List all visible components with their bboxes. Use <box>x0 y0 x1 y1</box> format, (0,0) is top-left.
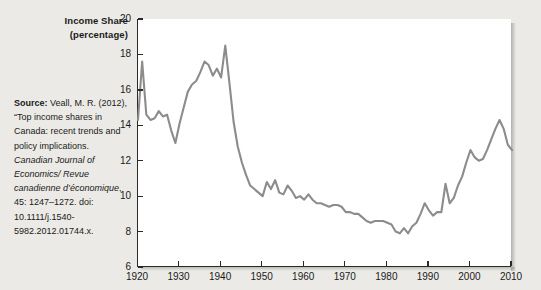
y-tick-20 <box>138 18 143 19</box>
y-tick-6 <box>138 266 143 267</box>
y-tick-label-10: 10 <box>105 191 131 201</box>
x-tick-label-2010: 2010 <box>491 272 531 282</box>
y-tick-label-20: 20 <box>105 14 131 24</box>
x-tick-label-1960: 1960 <box>283 272 323 282</box>
y-tick-label-14: 14 <box>105 120 131 130</box>
plot-area <box>137 19 511 267</box>
y-axis-title-line2: (percentage) <box>0 28 128 42</box>
x-tick-2000 <box>469 261 470 266</box>
x-tick-label-1930: 1930 <box>159 272 199 282</box>
income-share-chart-figure: Income Share (percentage) Source: Veall,… <box>0 0 541 290</box>
income-share-line <box>138 19 512 267</box>
x-tick-label-1950: 1950 <box>242 272 282 282</box>
y-tick-18 <box>138 54 143 55</box>
x-tick-1970 <box>344 261 345 266</box>
x-tick-1960 <box>303 261 304 266</box>
x-tick-label-1940: 1940 <box>200 272 240 282</box>
y-tick-label-8: 8 <box>105 227 131 237</box>
x-tick-1950 <box>261 261 262 266</box>
x-tick-1930 <box>178 261 179 266</box>
y-tick-label-12: 12 <box>105 156 131 166</box>
x-tick-label-1990: 1990 <box>408 272 448 282</box>
y-tick-12 <box>138 160 143 161</box>
x-tick-label-1920: 1920 <box>117 272 157 282</box>
source-label: Source: <box>14 98 48 108</box>
source-note: Source: Veall, M. R. (2012), “Top income… <box>14 96 128 238</box>
series-path-top-income-share <box>138 46 512 234</box>
x-tick-1980 <box>386 261 387 266</box>
source-journal: Canadian Journal of Economics/ Revue can… <box>14 155 119 193</box>
x-tick-label-2000: 2000 <box>449 272 489 282</box>
y-tick-10 <box>138 196 143 197</box>
x-tick-2010 <box>510 261 511 266</box>
y-tick-label-16: 16 <box>105 85 131 95</box>
x-tick-label-1980: 1980 <box>366 272 406 282</box>
x-tick-1940 <box>220 261 221 266</box>
x-tick-1990 <box>427 261 428 266</box>
y-tick-8 <box>138 231 143 232</box>
y-tick-label-18: 18 <box>105 49 131 59</box>
y-tick-14 <box>138 125 143 126</box>
y-tick-16 <box>138 89 143 90</box>
x-tick-label-1970: 1970 <box>325 272 365 282</box>
